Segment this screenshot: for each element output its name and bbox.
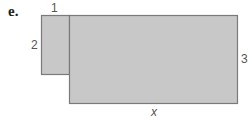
small-rect-height-label: 2 — [31, 38, 38, 52]
large-rect-width-label: x — [151, 105, 157, 119]
large-rectangle — [70, 16, 238, 104]
small-rect-width-label: 1 — [51, 1, 58, 15]
composite-rectangle-figure — [0, 0, 249, 128]
small-rectangle — [42, 16, 70, 75]
large-rect-height-label: 3 — [241, 52, 248, 66]
